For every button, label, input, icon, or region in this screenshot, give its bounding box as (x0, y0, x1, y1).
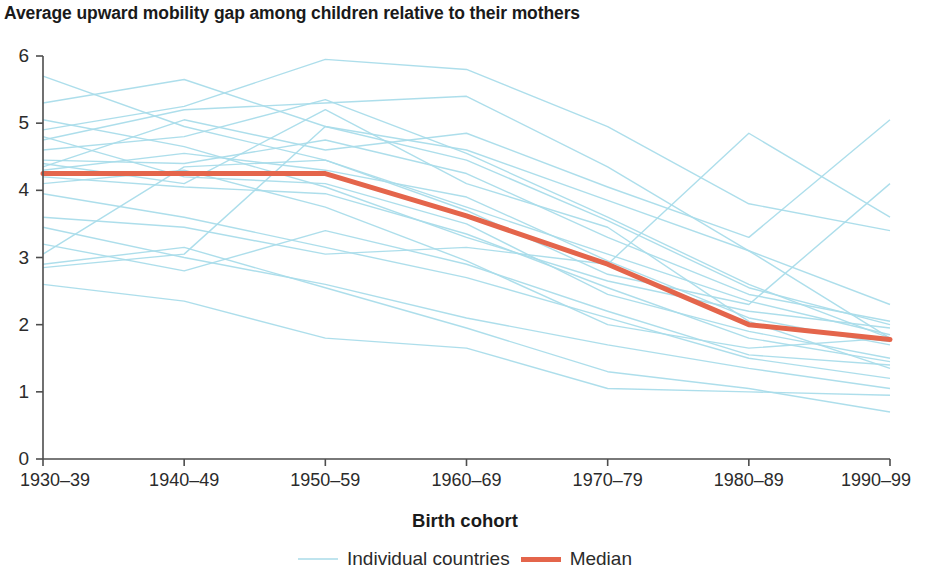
y-axis-tick-label: 5 (3, 112, 29, 134)
country-series-line (43, 110, 890, 369)
x-axis-tick-label: 1950–59 (290, 470, 360, 491)
axis-group (36, 56, 890, 466)
x-axis-tick-label: 1960–69 (431, 470, 501, 491)
legend-line-swatch-icon (521, 557, 561, 562)
country-series-line (43, 59, 890, 230)
legend-entry[interactable]: Individual countries (298, 548, 510, 570)
x-axis-tick-label: 1990–99 (841, 470, 911, 491)
y-axis-tick-label: 2 (3, 314, 29, 336)
y-axis-tick-label: 3 (3, 247, 29, 269)
country-series-line (43, 174, 890, 342)
legend-label: Individual countries (347, 548, 510, 570)
y-axis-tick-label: 4 (3, 179, 29, 201)
country-series-line (43, 194, 890, 379)
country-series-line (43, 247, 890, 412)
line-chart-plot (0, 0, 930, 579)
country-series-line (43, 100, 890, 338)
x-axis-tick-label: 1980–89 (714, 470, 784, 491)
chart-legend: Individual countriesMedian (0, 548, 930, 570)
country-series-line (43, 227, 890, 388)
legend-line-swatch-icon (298, 558, 338, 560)
x-axis-title: Birth cohort (0, 510, 930, 532)
x-axis-tick-label: 1970–79 (573, 470, 643, 491)
legend-label: Median (570, 548, 632, 570)
country-lines-group (43, 59, 890, 412)
country-series-line (43, 76, 890, 335)
legend-entry[interactable]: Median (521, 548, 632, 570)
y-axis-tick-label: 1 (3, 381, 29, 403)
country-series-line (43, 140, 890, 321)
chart-figure: Average upward mobility gap among childr… (0, 0, 930, 579)
x-axis-tick-label: 1930–39 (20, 470, 90, 491)
y-axis-tick-label: 6 (3, 45, 29, 67)
y-axis-tick-label: 0 (3, 448, 29, 470)
x-axis-tick-label: 1940–49 (149, 470, 219, 491)
